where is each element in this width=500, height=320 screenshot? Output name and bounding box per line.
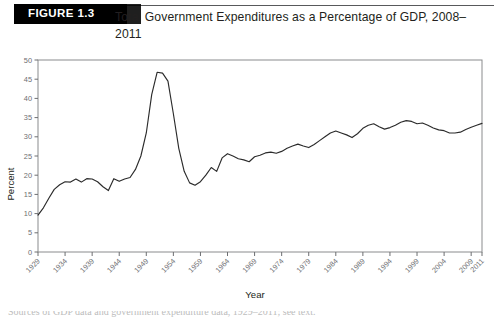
svg-text:1964: 1964 [213, 257, 231, 275]
svg-text:1944: 1944 [105, 257, 123, 275]
svg-text:1934: 1934 [51, 257, 69, 275]
x-axis-title: Year [245, 289, 265, 300]
x-axis: 1929193419391944194919541959196419691974… [24, 252, 486, 275]
data-line [38, 72, 482, 215]
svg-text:1989: 1989 [349, 257, 367, 275]
svg-text:2004: 2004 [430, 257, 448, 275]
svg-text:1959: 1959 [186, 257, 204, 275]
svg-text:15: 15 [24, 190, 32, 199]
y-axis: 05101520253035404550 [24, 56, 38, 257]
svg-text:0: 0 [28, 248, 32, 257]
svg-text:1994: 1994 [376, 257, 394, 275]
svg-text:1929: 1929 [24, 257, 42, 275]
figure-container: FIGURE 1.3 Total Government Expenditures… [0, 0, 500, 320]
svg-text:1954: 1954 [159, 257, 177, 275]
svg-text:40: 40 [24, 94, 32, 103]
chart-area: 05101520253035404550 1929193419391944194… [0, 52, 500, 320]
svg-text:20: 20 [24, 171, 32, 180]
svg-text:50: 50 [24, 56, 32, 65]
cropped-caption-text: Sources of GDP data and government expen… [8, 311, 316, 317]
svg-text:1949: 1949 [132, 257, 150, 275]
svg-text:5: 5 [28, 228, 32, 237]
figure-title: Total Government Expenditures as a Perce… [115, 9, 490, 42]
svg-text:1979: 1979 [295, 257, 313, 275]
figure-number-badge: FIGURE 1.3 [14, 4, 127, 24]
figure-number-label: FIGURE 1.3 [28, 7, 95, 19]
data-series-group [38, 72, 482, 215]
svg-text:1969: 1969 [241, 257, 259, 275]
header-rule [113, 5, 494, 6]
line-chart: 05101520253035404550 1929193419391944194… [0, 52, 500, 320]
svg-text:1984: 1984 [322, 257, 340, 275]
plot-frame [38, 60, 482, 252]
svg-text:1999: 1999 [403, 257, 421, 275]
svg-text:1939: 1939 [78, 257, 96, 275]
y-axis-title: Percent [5, 167, 16, 200]
svg-text:25: 25 [24, 152, 32, 161]
svg-text:45: 45 [24, 75, 32, 84]
svg-text:35: 35 [24, 113, 32, 122]
svg-text:10: 10 [24, 209, 32, 218]
cropped-caption-strip: Sources of GDP data and government expen… [0, 311, 500, 320]
svg-text:30: 30 [24, 132, 32, 141]
svg-text:1974: 1974 [268, 257, 286, 275]
